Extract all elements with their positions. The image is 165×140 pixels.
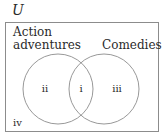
region-i-label: i	[79, 83, 82, 94]
set-label-action-adventures: Action adventures	[13, 26, 81, 52]
region-ii-label: ii	[42, 83, 48, 94]
region-iv-label: iv	[13, 117, 22, 128]
set-label-line: adventures	[13, 39, 81, 52]
region-iii-label: iii	[112, 83, 122, 94]
venn-circles	[0, 0, 165, 140]
set-label-comedies: Comedies	[102, 39, 162, 52]
